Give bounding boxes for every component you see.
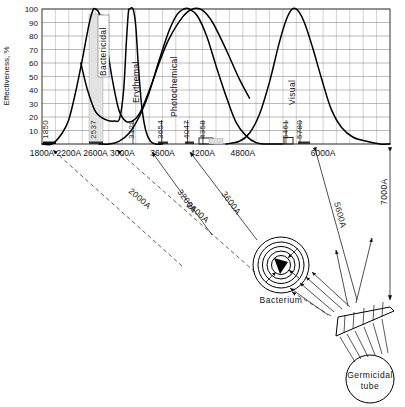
y-tick-60: 60 [29,59,38,68]
spectral-label-1850: 1850 [41,120,50,139]
prism-facet-4 [373,305,374,321]
y-tick-20: 20 [29,113,38,122]
x-axis-labels: 1800A 2200A 2600A 3000A 3600A 4200A 4800… [30,148,336,158]
y-tick-90: 90 [29,19,38,28]
y-tick-10: 10 [29,127,38,136]
x-tick-2600: 2600A [83,148,108,158]
spectral-marker-4047 [185,142,194,145]
germicidal-tube-label-line2: tube [361,381,380,391]
prism-facet-3 [363,308,364,325]
curve-label-photochemical: Photochemical [169,56,179,117]
y-axis-title: Effectiveness, % [2,47,11,106]
germicidal-tube-figure: Germicidal tube [340,319,394,403]
spectral-label-4047: 4047 [182,120,191,139]
x-tick-3000: 3000A [110,148,135,158]
tube-beam-5 [373,323,382,354]
y-tick-80: 80 [29,32,38,41]
spectral-line-labels: 1850 2537 3129 3654 4047 4358 5461 5780 [41,120,304,144]
prism-facet-5 [382,302,383,317]
ray-label-3600a: 3600A [219,189,243,216]
y-axis-labels: 100 90 80 70 60 50 40 30 20 10 Effective… [2,5,39,136]
ray-label-3200a: 3200A [175,187,199,214]
bacterium-arrow-a [288,248,298,258]
curve-labels: Bactericidal Erythemal Photochemical Vis… [98,15,297,117]
spectral-label-5780: 5780 [295,120,304,139]
y-tick-100: 100 [25,5,39,14]
y-tick-30: 30 [29,100,38,109]
tube-beam-2 [347,334,361,359]
emission-ray-6 [356,238,372,303]
bacterium-label: Bacterium [260,295,303,305]
curve-label-bactericidal: Bactericidal [98,27,108,76]
ray-lines: 2000A 2600A 3200A 3600A 5600A 7000A [53,150,390,300]
x-tick-1800: 1800A [30,148,55,158]
spectral-label-4358: 4358 [198,120,207,139]
spectral-band-4358b [209,139,223,145]
figure-root: 100 90 80 70 60 50 40 30 20 10 Effective… [0,0,405,407]
x-tick-4800: 4800A [231,148,256,158]
x-tick-4200: 4200A [190,148,215,158]
y-tick-70: 70 [29,46,38,55]
y-tick-50: 50 [29,73,38,82]
ray-label-7000a: 7000A [379,178,389,205]
spectral-label-2537: 2537 [89,120,98,139]
ray-label-2000a: 2000A [127,186,154,211]
ray-label-5600a: 5600A [332,201,349,229]
prism-facet-1 [344,315,345,333]
x-tick-3600: 3600A [150,148,175,158]
bacterium-figure: Bacterium [253,237,309,305]
tube-beam-3 [355,331,368,357]
figure-svg: 100 90 80 70 60 50 40 30 20 10 Effective… [0,0,405,407]
prism-wedge [336,302,394,336]
emission-ray-5 [336,250,348,306]
curve-label-visual: Visual [287,80,297,105]
spectral-label-5461: 5461 [281,120,290,139]
x-tick-6000: 6000A [311,148,336,158]
tube-beam-1 [340,337,355,362]
curve-visual [226,8,390,144]
y-tick-40: 40 [29,86,38,95]
bacterium-nucleus [274,258,288,274]
germicidal-tube-label-line1: Germicidal [347,370,393,380]
spectral-label-3654: 3654 [156,120,165,139]
curve-label-erythemal: Erythemal [131,61,141,103]
ray-5600a [316,152,357,300]
tube-beam-4 [364,327,375,355]
tube-beam-6 [382,319,388,353]
